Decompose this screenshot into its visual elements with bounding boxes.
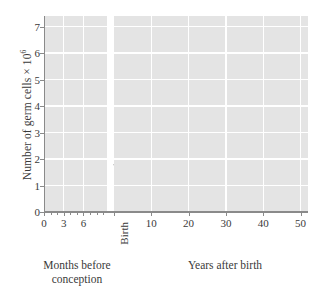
x-tick-mark xyxy=(226,212,227,216)
germ-cell-chart-figure: Number of germ cells × 106 01234567 0361… xyxy=(0,0,324,294)
x-tick-label: 0 xyxy=(41,217,47,229)
plot-area xyxy=(44,16,308,212)
vertical-gridline xyxy=(300,16,301,212)
x-minor-tick-mark xyxy=(90,212,91,215)
x-tick-label: 6 xyxy=(81,217,87,229)
vertical-gridline xyxy=(225,16,226,212)
x-minor-tick-mark xyxy=(77,212,78,215)
y-tick-mark xyxy=(40,80,45,81)
x-tick-label: 30 xyxy=(220,217,231,229)
x-tick-mark xyxy=(301,212,302,216)
vertical-gridline xyxy=(263,16,264,212)
x-minor-tick-mark xyxy=(70,212,71,215)
postnatal-panel-background xyxy=(114,16,308,212)
vertical-gridline xyxy=(83,16,84,212)
postnatal-caption-line1: Years after birth xyxy=(150,258,300,272)
x-minor-tick-mark xyxy=(97,212,98,215)
y-tick-mark xyxy=(40,186,45,187)
y-tick-mark xyxy=(40,159,45,160)
x-tick-label: 50 xyxy=(295,217,306,229)
x-tick-label: 20 xyxy=(183,217,194,229)
vertical-gridline xyxy=(63,16,64,212)
y-tick-mark xyxy=(40,53,45,54)
x-minor-tick-mark xyxy=(57,212,58,215)
x-minor-tick-mark xyxy=(103,212,104,215)
prenatal-caption-line2: conception xyxy=(22,272,132,286)
vertical-gridline xyxy=(188,16,189,212)
x-tick-label: 10 xyxy=(146,217,157,229)
x-minor-tick-mark xyxy=(51,212,52,215)
prenatal-panel-background xyxy=(44,16,107,212)
x-tick-mark xyxy=(189,212,190,216)
x-tick-mark xyxy=(83,212,84,216)
x-tick-mark xyxy=(114,212,115,216)
vertical-gridline xyxy=(151,16,152,212)
x-tick-mark xyxy=(263,212,264,216)
postnatal-caption: Years after birth xyxy=(150,258,300,272)
birth-axis-label: Birth xyxy=(118,222,130,245)
y-tick-label-group: 01234567 xyxy=(26,16,40,212)
y-tick-mark xyxy=(40,27,45,28)
y-tick-mark xyxy=(40,106,45,107)
prenatal-caption: Months before conception xyxy=(22,258,132,287)
y-axis-line xyxy=(44,16,45,212)
x-tick-mark xyxy=(44,212,45,216)
x-tick-mark xyxy=(64,212,65,216)
x-tick-mark xyxy=(151,212,152,216)
x-tick-label: 3 xyxy=(61,217,67,229)
x-tick-label: 40 xyxy=(258,217,269,229)
prenatal-caption-line1: Months before xyxy=(22,258,132,272)
y-tick-mark xyxy=(40,133,45,134)
